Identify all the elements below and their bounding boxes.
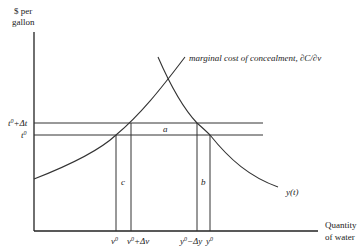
- marginal-cost-curve: [34, 57, 185, 179]
- y-axis-label-line1: $ per: [14, 6, 32, 16]
- x-axis-label-line2: of water: [325, 232, 355, 242]
- price-label-t0: t0: [21, 130, 27, 140]
- region-label-a: a: [163, 124, 168, 134]
- supply-curve-label: y(t): [285, 187, 299, 197]
- economics-diagram: $ per gallon Quantity of water marginal …: [0, 0, 363, 250]
- x-axis-label-line1: Quantity: [325, 220, 357, 230]
- supply-curve-y-t: [158, 57, 278, 187]
- marginal-cost-label: marginal cost of concealment, ∂C/∂v: [189, 53, 321, 63]
- tick-label-v0-plus-dv: v0+Δv: [127, 236, 149, 246]
- price-label-t0-plus-dt: t0+Δt: [8, 118, 28, 128]
- tick-label-y0-minus-dy: y0−Δy: [179, 236, 202, 246]
- y-axis-label-line2: gallon: [12, 17, 35, 27]
- tick-label-y0: y0: [205, 236, 213, 246]
- tick-label-v0: v0: [111, 236, 118, 246]
- region-label-c: c: [121, 177, 125, 187]
- region-label-b: b: [201, 177, 206, 187]
